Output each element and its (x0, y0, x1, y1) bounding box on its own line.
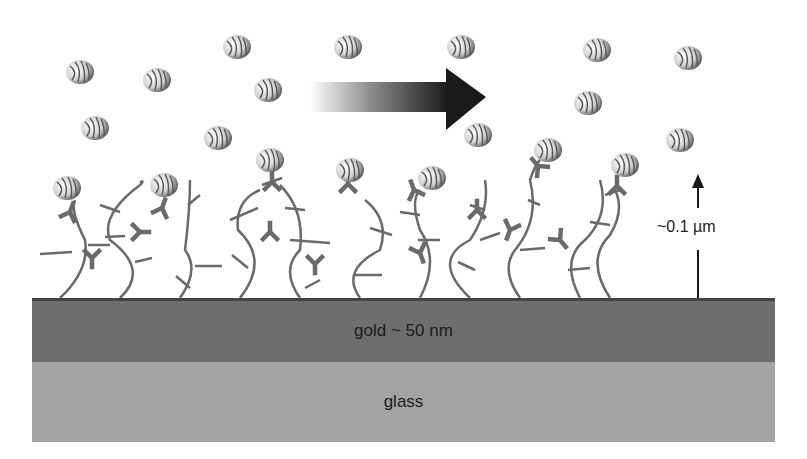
height-label: ~0.1 µm (657, 218, 716, 236)
gold-layer-label: gold ~ 50 nm (32, 321, 775, 341)
gold-layer: gold ~ 50 nm (32, 298, 775, 362)
polymer-chains (40, 160, 620, 298)
flow-arrow-icon (310, 68, 486, 130)
glass-layer: glass (32, 362, 775, 442)
height-indicator-arrow (692, 174, 704, 298)
glass-layer-label: glass (32, 392, 775, 412)
analyte-particles (53, 35, 702, 200)
sensor-diagram: gold ~ 50 nm glass ~0.1 µm (0, 0, 807, 459)
